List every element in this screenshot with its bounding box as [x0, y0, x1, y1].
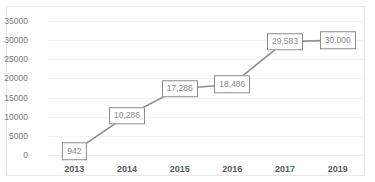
y-axis-tick-label: 35000: [0, 17, 28, 26]
y-axis-tick-label: 15000: [0, 94, 28, 103]
clipped-title-strip: ····· ······ ····: [150, 0, 360, 5]
chart-frame: 05000100001500020000250003000035000 9421…: [6, 6, 365, 176]
data-point-label: 10,286: [109, 107, 145, 125]
x-axis-tick-label: 2014: [117, 165, 137, 174]
gridline: [48, 155, 364, 156]
data-point-label: 29,583: [267, 33, 303, 51]
x-axis-tick-label: 2015: [170, 165, 190, 174]
clipped-title-text: ····· ······ ····: [150, 0, 203, 2]
line-series: [48, 21, 364, 155]
data-point-label: 17,286: [162, 80, 198, 98]
data-point-label: 30,000: [320, 31, 356, 49]
y-axis-tick-label: 25000: [0, 55, 28, 64]
y-axis-tick-label: 0: [0, 151, 28, 160]
x-axis-tick-label: 2016: [222, 165, 242, 174]
plot-area: 05000100001500020000250003000035000 9421…: [48, 21, 364, 155]
data-point-label: 18,486: [214, 75, 250, 93]
y-axis-tick-label: 20000: [0, 74, 28, 83]
x-axis-tick-label: 2017: [275, 165, 295, 174]
series-polyline: [74, 40, 337, 151]
y-axis-tick-label: 30000: [0, 36, 28, 45]
x-axis-tick-label: 2013: [64, 165, 84, 174]
x-axis-tick-label: 2019: [328, 165, 348, 174]
y-axis-tick-label: 10000: [0, 113, 28, 122]
x-axis-tick-labels: 201320142015201620172019: [48, 165, 364, 177]
y-axis-tick-label: 5000: [0, 132, 28, 141]
data-point-label: 942: [62, 143, 86, 161]
